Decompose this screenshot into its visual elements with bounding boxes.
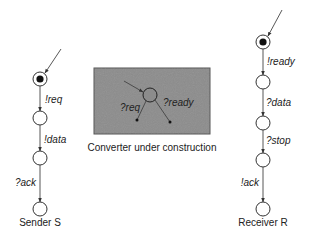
sender-caption: Sender S (19, 217, 61, 228)
sender-label-req: !req (45, 94, 63, 105)
receiver-state-3 (256, 116, 270, 130)
receiver-automaton: !ready ?data ?stop !ack Receiver R (238, 10, 296, 228)
converter: ?req ?ready Converter under construction (88, 68, 217, 153)
receiver-label-stop: ?stop (266, 135, 291, 146)
converter-caption: Converter under construction (88, 142, 217, 153)
receiver-initial-arrow (268, 10, 282, 36)
receiver-label-ready: !ready (267, 56, 296, 67)
converter-label-ready: ?ready (163, 97, 195, 108)
sender-label-ack: ?ack (15, 177, 37, 188)
sender-initial-arrow (45, 49, 61, 73)
receiver-state-2 (256, 75, 270, 89)
protocol-converter-diagram: !req !data ?ack Sender S ?req ?ready Con… (0, 0, 311, 238)
sender-state-3 (33, 151, 47, 165)
converter-label-req: ?req (120, 102, 140, 113)
receiver-state-5 (256, 202, 270, 216)
sender-label-data: !data (44, 134, 67, 145)
sender-automaton: !req !data ?ack Sender S (15, 49, 67, 228)
sender-state-4 (33, 202, 47, 216)
converter-edge-ready-end (169, 121, 172, 124)
receiver-label-ack: !ack (241, 177, 260, 188)
receiver-caption: Receiver R (238, 217, 287, 228)
sender-initial-state-dot (36, 75, 43, 82)
sender-state-2 (33, 111, 47, 125)
converter-state (143, 88, 157, 102)
converter-edge-req-end (136, 119, 139, 122)
receiver-state-4 (256, 153, 270, 167)
receiver-initial-state-dot (259, 38, 266, 45)
receiver-label-data: ?data (266, 97, 291, 108)
